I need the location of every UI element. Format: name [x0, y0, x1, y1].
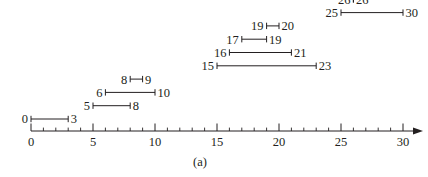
- interval-bar: 89: [121, 73, 151, 87]
- interval-end-label: 8: [133, 99, 139, 113]
- axis-tick-label: 10: [149, 135, 162, 149]
- interval-end-label: 3: [71, 112, 77, 126]
- interval-end-label: 30: [406, 6, 419, 20]
- interval-bar: 58: [84, 99, 139, 113]
- interval-start-label: 15: [202, 59, 215, 73]
- interval-bar: 1719: [226, 33, 281, 47]
- interval-end-label: 23: [319, 59, 332, 73]
- axis-tick-label: 5: [90, 135, 96, 149]
- axis-tick-label: 0: [28, 135, 34, 149]
- axis-arrow-icon: [413, 127, 423, 134]
- interval-start-label: 17: [226, 33, 239, 47]
- interval-end-label: 19: [269, 33, 282, 47]
- interval-end-label: 20: [282, 19, 295, 33]
- interval-start-label: 5: [84, 99, 90, 113]
- axis-tick-label: 25: [335, 135, 348, 149]
- interval-bar: 610: [96, 86, 170, 100]
- interval-start-label: 19: [251, 19, 264, 33]
- interval-start-label: 16: [214, 46, 227, 60]
- intervals-layer: 035861089152316211719192025302626: [22, 0, 418, 126]
- interval-start-label: 8: [121, 73, 127, 87]
- interval-end-label: 26: [356, 0, 369, 7]
- x-axis: 051015202530: [28, 124, 423, 149]
- figure-caption: (a): [0, 155, 414, 169]
- axis-tick-label: 30: [397, 135, 410, 149]
- interval-end-label: 10: [158, 86, 171, 100]
- interval-bar: 1920: [251, 19, 294, 33]
- interval-bar: 1621: [214, 46, 307, 60]
- interval-bar: 2626: [338, 0, 369, 7]
- interval-end-label: 21: [294, 46, 307, 60]
- interval-start-label: 25: [326, 6, 339, 20]
- interval-bar: 2530: [326, 6, 419, 20]
- interval-figure: 035861089152316211719192025302626 051015…: [0, 0, 428, 177]
- interval-start-label: 0: [22, 112, 28, 126]
- axis-tick-label: 20: [273, 135, 286, 149]
- interval-end-label: 9: [145, 73, 151, 87]
- interval-chart-plot: 035861089152316211719192025302626 051015…: [0, 0, 428, 177]
- axis-tick-label: 15: [211, 135, 224, 149]
- interval-start-label: 26: [338, 0, 351, 7]
- interval-start-label: 6: [96, 86, 102, 100]
- interval-bar: 03: [22, 112, 77, 126]
- interval-bar: 1523: [202, 59, 332, 73]
